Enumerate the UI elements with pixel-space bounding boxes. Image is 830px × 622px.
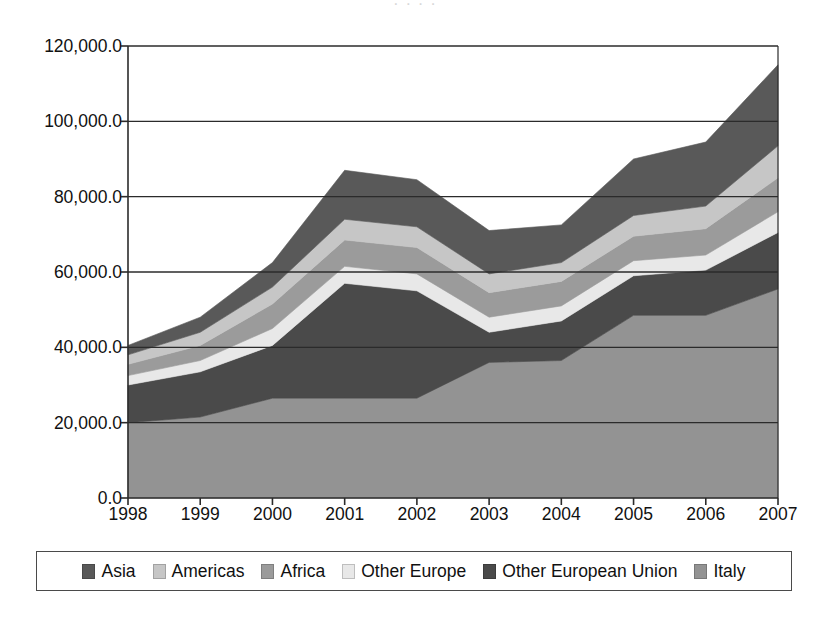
y-axis-tick-label: 40,000.0 [2,340,122,354]
chart-title-remnant: · · · · [0,0,830,6]
stacked-area-plot [128,46,778,498]
legend-items: AsiaAmericasAfricaOther EuropeOther Euro… [82,561,745,582]
x-axis-tick-label: 2004 [529,504,593,525]
area-chart-figure: · · · · 0.020,000.040,000.060,000.080,00… [0,0,830,622]
y-axis-tick-label: 0.0 [2,491,122,505]
x-axis-tick-label: 1999 [168,504,232,525]
legend-swatch-icon [694,564,707,579]
legend-swatch-icon [342,564,355,579]
legend-item-label: Italy [713,561,745,582]
y-axis-tick-label: 120,000.0 [2,39,122,53]
legend-item-asia[interactable]: Asia [82,561,135,582]
x-axis-tick-label: 2000 [240,504,304,525]
legend-item-italy[interactable]: Italy [694,561,745,582]
legend-item-label: Americas [172,561,245,582]
y-axis-tick-label: 60,000.0 [2,265,122,279]
x-axis-tick-label: 2003 [457,504,521,525]
x-axis-tick-label: 2002 [385,504,449,525]
chart-legend: AsiaAmericasAfricaOther EuropeOther Euro… [36,551,792,591]
x-axis-tick-label: 2006 [674,504,738,525]
legend-swatch-icon [483,564,496,579]
legend-swatch-icon [261,564,274,579]
legend-item-africa[interactable]: Africa [261,561,325,582]
legend-item-label: Other Europe [361,561,466,582]
y-axis-labels: 0.020,000.040,000.060,000.080,000.0100,0… [0,0,122,520]
legend-item-label: Africa [280,561,325,582]
x-axis-tick-label: 2005 [602,504,666,525]
legend-item-americas[interactable]: Americas [153,561,245,582]
y-axis-tick-label: 100,000.0 [2,114,122,128]
legend-item-other-european-union[interactable]: Other European Union [483,561,677,582]
plot-area [128,46,778,498]
legend-item-other-europe[interactable]: Other Europe [342,561,466,582]
legend-swatch-icon [153,564,166,579]
legend-item-label: Asia [101,561,135,582]
x-axis-tick-label: 2007 [746,504,810,525]
x-axis-labels: 1998199920002001200220032004200520062007 [128,504,788,530]
legend-item-label: Other European Union [502,561,677,582]
legend-swatch-icon [82,564,95,579]
x-axis-tick-label: 2001 [313,504,377,525]
x-axis-tick-label: 1998 [96,504,160,525]
y-axis-tick-label: 80,000.0 [2,190,122,204]
y-axis-tick-label: 20,000.0 [2,416,122,430]
